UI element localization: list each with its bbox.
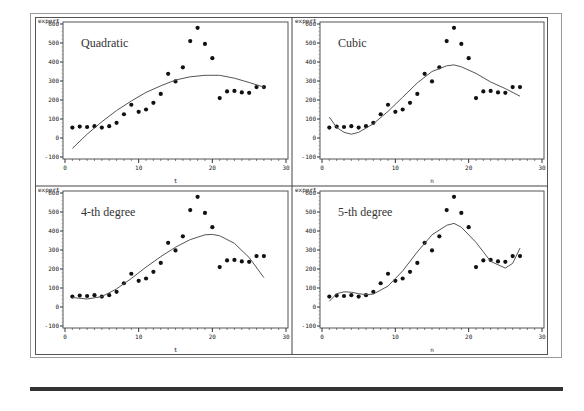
data-point bbox=[415, 92, 419, 96]
data-point bbox=[423, 72, 427, 76]
x-axis-label: n bbox=[430, 177, 434, 184]
y-tick-label: 100 bbox=[305, 115, 316, 122]
data-point bbox=[188, 39, 192, 43]
data-point bbox=[408, 270, 412, 274]
data-point bbox=[181, 65, 185, 69]
x-tick-label: 20 bbox=[209, 333, 217, 340]
data-point bbox=[78, 125, 82, 129]
y-tick-label: 300 bbox=[48, 246, 59, 253]
y-tick-label: 300 bbox=[305, 77, 316, 84]
data-point bbox=[85, 125, 89, 129]
y-tick-label: 300 bbox=[305, 246, 316, 253]
y-tick-label: 400 bbox=[48, 58, 59, 65]
data-point bbox=[247, 91, 251, 95]
y-tick-label: 500 bbox=[305, 208, 316, 215]
x-tick-label: 20 bbox=[465, 164, 473, 171]
data-point bbox=[393, 110, 397, 114]
panel-title: Quadratic bbox=[81, 36, 128, 50]
x-axis-label: n bbox=[430, 346, 434, 353]
data-point bbox=[481, 89, 485, 93]
y-tick-label: 100 bbox=[48, 284, 59, 291]
x-tick-label: 0 bbox=[63, 333, 67, 340]
data-point bbox=[349, 124, 353, 128]
x-tick-label: 0 bbox=[63, 164, 67, 171]
data-point bbox=[225, 89, 229, 93]
data-point bbox=[188, 208, 192, 212]
y-tick-label: 200 bbox=[305, 265, 316, 272]
y-tick-label: 400 bbox=[48, 227, 59, 234]
data-point bbox=[327, 294, 331, 298]
data-point bbox=[166, 241, 170, 245]
data-point bbox=[511, 85, 515, 89]
data-point bbox=[327, 125, 331, 129]
data-point bbox=[196, 26, 200, 30]
y-tick-label: -100 bbox=[45, 322, 60, 329]
data-point bbox=[503, 260, 507, 264]
data-point bbox=[173, 248, 177, 252]
data-point bbox=[122, 112, 126, 116]
data-point bbox=[467, 225, 471, 229]
data-point bbox=[196, 195, 200, 199]
y-tick-label: 0 bbox=[312, 303, 316, 310]
y-axis-label: export bbox=[295, 17, 317, 25]
data-point bbox=[107, 124, 111, 128]
data-point bbox=[100, 125, 104, 129]
data-point bbox=[445, 208, 449, 212]
data-point bbox=[364, 293, 368, 297]
data-point bbox=[437, 234, 441, 238]
data-point bbox=[218, 96, 222, 100]
y-axis-label: export bbox=[38, 17, 60, 25]
data-point bbox=[467, 56, 471, 60]
data-point bbox=[452, 26, 456, 30]
bottom-rule bbox=[30, 387, 563, 391]
x-tick-label: 30 bbox=[282, 333, 290, 340]
data-point bbox=[401, 276, 405, 280]
panel-title: 4-th degree bbox=[81, 205, 135, 219]
data-point bbox=[342, 294, 346, 298]
data-point bbox=[349, 293, 353, 297]
x-tick-label: 30 bbox=[538, 164, 546, 171]
data-point bbox=[78, 294, 82, 298]
data-point bbox=[114, 290, 118, 294]
y-tick-label: -100 bbox=[45, 153, 60, 160]
data-point bbox=[151, 101, 155, 105]
data-point bbox=[511, 254, 515, 258]
data-point bbox=[393, 279, 397, 283]
data-point bbox=[151, 270, 155, 274]
x-axis-label: t bbox=[174, 346, 178, 353]
data-point bbox=[85, 294, 89, 298]
data-point bbox=[481, 258, 485, 262]
data-point bbox=[240, 259, 244, 263]
data-point bbox=[386, 103, 390, 107]
data-point bbox=[430, 248, 434, 252]
y-tick-label: 100 bbox=[305, 284, 316, 291]
data-point bbox=[459, 211, 463, 215]
data-point bbox=[114, 121, 118, 125]
fitted-curve bbox=[329, 223, 520, 301]
y-tick-label: 200 bbox=[48, 96, 59, 103]
x-tick-label: 10 bbox=[135, 333, 143, 340]
data-point bbox=[445, 39, 449, 43]
x-tick-label: 10 bbox=[392, 164, 400, 171]
data-point bbox=[357, 294, 361, 298]
data-point bbox=[489, 89, 493, 93]
chart-panel-4: -10001002003004005006000102030exportn5-t… bbox=[295, 186, 546, 353]
data-point bbox=[218, 265, 222, 269]
chart-panel-1: -10001002003004005006000102030exporttQua… bbox=[38, 17, 290, 184]
chart-panel-3: -10001002003004005006000102030exportt4-t… bbox=[38, 186, 290, 353]
data-point bbox=[92, 293, 96, 297]
data-point bbox=[518, 85, 522, 89]
data-point bbox=[254, 254, 258, 258]
y-tick-label: -100 bbox=[302, 322, 317, 329]
x-tick-label: 30 bbox=[282, 164, 290, 171]
data-point bbox=[203, 42, 207, 46]
x-tick-label: 20 bbox=[465, 333, 473, 340]
data-point bbox=[70, 125, 74, 129]
y-tick-label: 400 bbox=[305, 58, 316, 65]
x-tick-label: 30 bbox=[538, 333, 546, 340]
y-tick-label: 500 bbox=[305, 39, 316, 46]
data-point bbox=[210, 225, 214, 229]
chart-panel-2: -10001002003004005006000102030exportnCub… bbox=[295, 17, 546, 184]
data-point bbox=[262, 254, 266, 258]
y-axis-label: export bbox=[38, 186, 60, 194]
